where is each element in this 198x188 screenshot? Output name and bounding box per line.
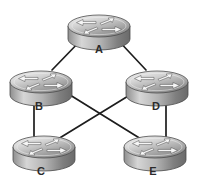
router-a-label: A [95,43,103,55]
router-e-label: E [149,165,156,177]
topology-canvas: A B D C E [0,0,198,188]
router-d-label: D [152,100,160,112]
router-c-label: C [37,165,45,177]
network-topology-diagram: A B D C E [0,0,198,188]
router-b-label: B [35,100,43,112]
node-group [10,15,188,171]
